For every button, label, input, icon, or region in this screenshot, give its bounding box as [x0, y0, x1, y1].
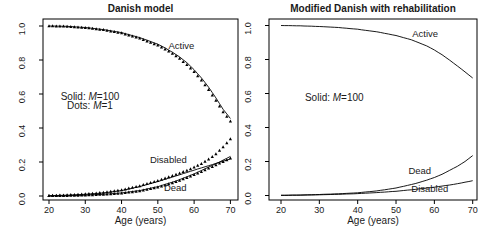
- y-tick-label: 0.6: [17, 91, 27, 104]
- y-tick-label: 0.0: [17, 193, 27, 206]
- dot-marker: [138, 184, 141, 187]
- figure-two-panel-survival-model: Danish model2030405060700.00.20.40.60.81…: [0, 0, 492, 241]
- dot-marker: [156, 179, 159, 182]
- dot-marker: [135, 185, 138, 188]
- dot-marker: [174, 173, 177, 176]
- dot-marker: [142, 183, 145, 186]
- dot-marker: [185, 169, 188, 172]
- dot-marker: [211, 155, 214, 158]
- dot-marker: [127, 187, 130, 190]
- dot-marker: [120, 188, 123, 191]
- dot-marker: [113, 189, 116, 192]
- x-tick-label: 20: [44, 205, 54, 215]
- dot-marker: [229, 137, 232, 140]
- x-tick-label: 20: [276, 205, 286, 215]
- dot-marker: [167, 175, 170, 178]
- curve-label-active: Active: [412, 28, 438, 39]
- dot-marker: [214, 152, 217, 155]
- x-tick-label: 60: [189, 205, 199, 215]
- dot-marker: [200, 162, 203, 165]
- x-axis-label: Age (years): [347, 215, 399, 226]
- curve-label-disabled: Disabled: [150, 154, 187, 165]
- dot-marker: [189, 167, 192, 170]
- x-tick-label: 70: [225, 205, 235, 215]
- y-tick-label: 0.2: [17, 159, 27, 172]
- dot-marker: [149, 181, 152, 184]
- curve-label-dead: Dead: [164, 182, 187, 193]
- dot-marker: [145, 182, 148, 185]
- dot-marker: [178, 171, 181, 174]
- y-tick-label: 0.4: [243, 124, 253, 137]
- dot-marker: [124, 187, 127, 190]
- curve-label-dead: Dead: [408, 165, 431, 176]
- dot-marker: [116, 189, 119, 192]
- y-tick-label: 0.4: [17, 125, 27, 138]
- dot-marker: [182, 170, 185, 173]
- x-tick-label: 40: [117, 205, 127, 215]
- y-tick-label: 1.0: [243, 22, 253, 35]
- charts-canvas: Danish model2030405060700.00.20.40.60.81…: [0, 0, 492, 241]
- dot-marker: [131, 186, 134, 189]
- dot-marker: [222, 145, 225, 148]
- dot-marker: [153, 180, 156, 183]
- dot-marker: [225, 141, 228, 144]
- x-tick-label: 50: [391, 205, 401, 215]
- dot-marker: [171, 174, 174, 177]
- dot-marker: [160, 178, 163, 181]
- legend-annotation: Solid: M=100: [305, 92, 364, 103]
- series-line-active-m-100-: [281, 26, 473, 79]
- chart-title: Danish model: [108, 3, 174, 14]
- x-tick-label: 30: [314, 205, 324, 215]
- y-tick-label: 0.2: [243, 158, 253, 171]
- dot-marker: [196, 164, 199, 167]
- x-tick-label: 30: [80, 205, 90, 215]
- x-axis-label: Age (years): [115, 215, 167, 226]
- chart-title: Modified Danish with rehabilitation: [290, 3, 456, 14]
- curve-label-active: Active: [168, 40, 194, 51]
- x-tick-label: 70: [468, 205, 478, 215]
- x-tick-label: 50: [153, 205, 163, 215]
- legend-annotation: Dots: M=1: [67, 100, 113, 111]
- dot-marker: [229, 119, 232, 122]
- x-tick-label: 60: [429, 205, 439, 215]
- y-tick-label: 1.0: [17, 23, 27, 36]
- dot-marker: [207, 158, 210, 161]
- dot-marker: [203, 160, 206, 163]
- y-tick-label: 0.6: [243, 90, 253, 103]
- x-tick-label: 40: [353, 205, 363, 215]
- chart-panel-modified-danish: Modified Danish with rehabilitation20304…: [243, 3, 478, 226]
- y-tick-label: 0.8: [17, 57, 27, 70]
- y-tick-label: 0.8: [243, 56, 253, 69]
- dot-marker: [218, 149, 221, 152]
- y-tick-label: 0.0: [243, 192, 253, 205]
- chart-panel-danish-model: Danish model2030405060700.00.20.40.60.81…: [17, 3, 238, 226]
- dot-marker: [164, 177, 167, 180]
- dot-marker: [193, 166, 196, 169]
- curve-label-disabled: Disabled: [411, 183, 448, 194]
